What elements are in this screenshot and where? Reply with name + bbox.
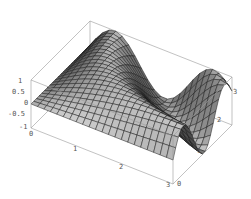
y-axis-tick: 2 [217, 117, 221, 124]
surface-plot [0, 0, 251, 199]
x-axis-tick: 1 [73, 146, 77, 153]
z-axis-tick: 1 [18, 78, 22, 85]
y-axis-tick: 0 [177, 181, 181, 188]
x-axis-tick: 2 [119, 164, 123, 171]
z-axis-tick: 0.5 [12, 89, 25, 96]
x-axis-tick: 0 [29, 131, 33, 138]
y-axis-tick: 1 [197, 148, 201, 155]
z-axis-tick: 0 [24, 100, 28, 107]
y-axis-tick: 3 [233, 89, 237, 96]
z-axis-tick: -1 [19, 124, 27, 131]
x-axis-tick: 3 [166, 182, 170, 189]
z-axis-tick: -0.5 [8, 111, 25, 118]
